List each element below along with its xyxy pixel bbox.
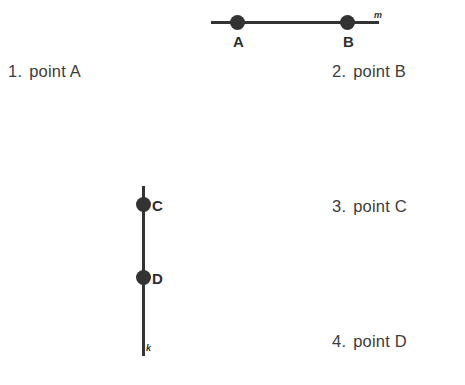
point-a-dot — [230, 15, 245, 30]
answer-choice-1-number: 1. — [8, 62, 22, 81]
point-d-label: D — [152, 271, 163, 286]
point-d-dot — [136, 270, 151, 285]
point-c-dot — [136, 197, 151, 212]
answer-choice-4-label: point D — [353, 332, 407, 350]
worksheet-canvas: A B m C D k 1.point A 2.point B 3.point … — [0, 0, 465, 385]
answer-choice-4-number: 4. — [332, 332, 346, 351]
answer-choice-4[interactable]: 4.point D — [332, 332, 407, 351]
answer-choice-3[interactable]: 3.point C — [332, 197, 407, 216]
point-c-label: C — [152, 198, 163, 213]
answer-choice-3-number: 3. — [332, 197, 346, 216]
answer-choice-2[interactable]: 2.point B — [332, 62, 406, 81]
line-m-name-label: m — [374, 11, 382, 20]
answer-choice-3-label: point C — [353, 197, 407, 215]
answer-choice-2-label: point B — [353, 62, 406, 80]
point-b-dot — [340, 15, 355, 30]
answer-choice-1[interactable]: 1.point A — [8, 62, 81, 81]
point-b-label: B — [343, 34, 354, 49]
point-a-label: A — [233, 34, 244, 49]
answer-choice-2-number: 2. — [332, 62, 346, 81]
answer-choice-1-label: point A — [29, 62, 81, 80]
line-k-name-label: k — [146, 344, 151, 353]
